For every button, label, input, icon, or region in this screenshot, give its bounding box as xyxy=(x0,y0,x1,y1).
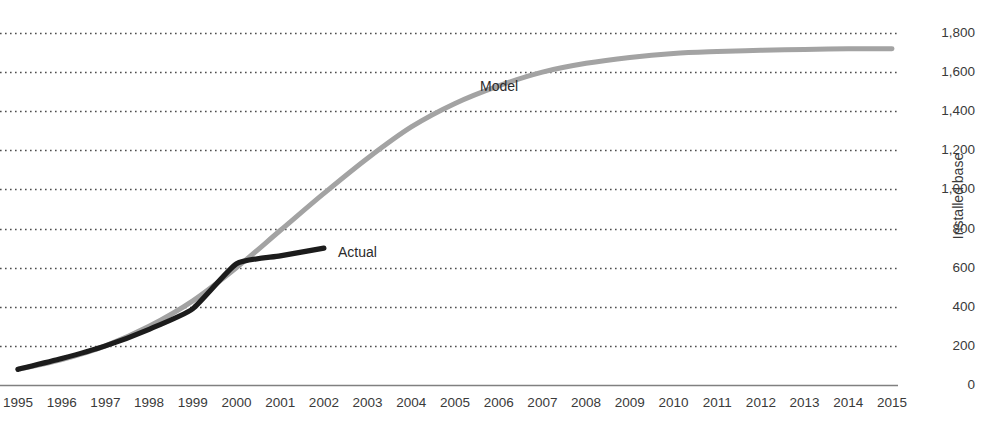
x-tick-label: 2004 xyxy=(396,396,426,410)
y-tick-label: 200 xyxy=(952,339,975,353)
x-tick-label: 2010 xyxy=(658,396,688,410)
x-tick-label: 2009 xyxy=(615,396,645,410)
y-tick-label: 400 xyxy=(952,300,975,314)
x-tick-label: 2011 xyxy=(703,396,732,410)
x-tick-label: 2003 xyxy=(353,396,383,410)
x-tick-label: 1995 xyxy=(3,396,33,410)
x-tick-label: 2014 xyxy=(833,396,863,410)
y-tick-label: 1,400 xyxy=(941,104,975,118)
x-tick-label: 1996 xyxy=(47,396,77,410)
chart-container: 02004006008001,0001,2001,4001,6001,800 1… xyxy=(0,0,981,422)
x-tick-label: 2000 xyxy=(221,396,251,410)
series-line-actual xyxy=(18,248,324,369)
y-tick-label: 0 xyxy=(967,378,975,392)
y-tick-label: 1,600 xyxy=(941,65,975,79)
x-tick-label: 2001 xyxy=(265,396,295,410)
x-tick-label: 2006 xyxy=(484,396,514,410)
x-tick-label: 2012 xyxy=(746,396,776,410)
x-tick-label: 2007 xyxy=(527,396,557,410)
x-tick-label: 2002 xyxy=(309,396,339,410)
series-line-model xyxy=(18,49,892,370)
y-axis-title: Installed base xyxy=(950,153,966,239)
y-tick-label: 1,800 xyxy=(941,26,975,40)
plot-area xyxy=(0,0,981,422)
x-tick-label: 1998 xyxy=(134,396,164,410)
data-series xyxy=(18,49,892,370)
series-label-model: Model xyxy=(480,79,518,93)
x-tick-label: 2005 xyxy=(440,396,470,410)
x-tick-label: 1999 xyxy=(178,396,208,410)
gridlines xyxy=(0,34,898,347)
series-label-actual: Actual xyxy=(338,245,377,259)
x-tick-label: 2008 xyxy=(571,396,601,410)
x-tick-label: 2015 xyxy=(877,396,907,410)
x-tick-label: 1997 xyxy=(90,396,120,410)
x-tick-label: 2013 xyxy=(790,396,820,410)
y-tick-label: 600 xyxy=(952,261,975,275)
